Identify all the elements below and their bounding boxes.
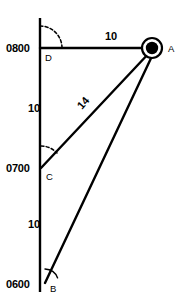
plot-canvas: 0800 0700 0600 10 10 10 14 A D C B <box>0 0 183 299</box>
time-label-0700: 0700 <box>6 162 30 174</box>
bearing-ray-c-a <box>41 52 150 168</box>
distance-label-d-a: 10 <box>105 30 117 42</box>
point-label-b: B <box>50 283 56 294</box>
point-label-a: A <box>168 43 175 54</box>
point-label-d: D <box>45 52 52 63</box>
time-label-0600: 0600 <box>6 278 30 290</box>
time-label-0800: 0800 <box>6 42 30 54</box>
bearing-ray-b-a <box>45 54 153 283</box>
point-label-c: C <box>46 171 53 182</box>
angle-arc-d <box>40 26 62 48</box>
distance-label-c-b: 10 <box>28 218 40 230</box>
bearing-plot-figure: 0800 0700 0600 10 10 10 14 A D C B <box>0 0 183 299</box>
target-marker-dot-a <box>146 42 158 54</box>
range-label-c-a: 14 <box>74 94 92 112</box>
distance-label-d-c: 10 <box>28 102 40 114</box>
